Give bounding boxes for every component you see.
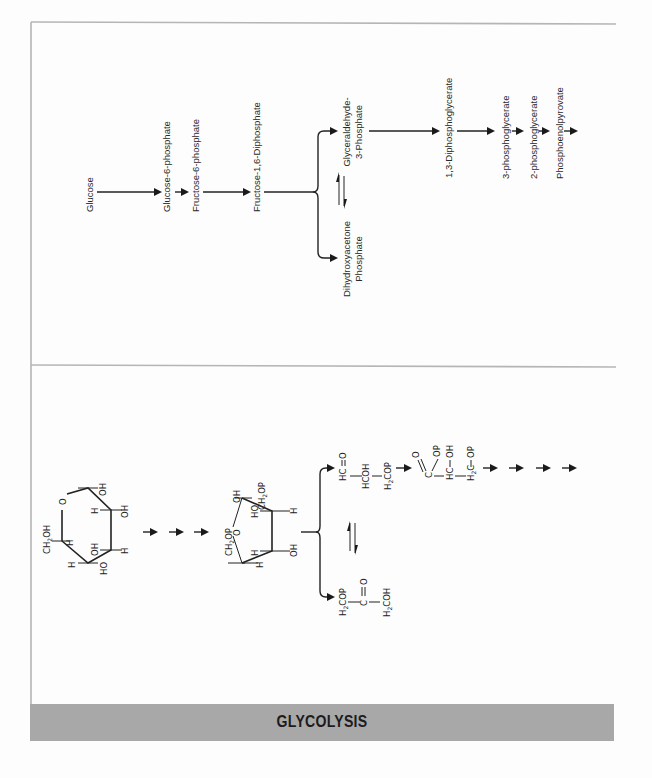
dihydroxyacetone-phosphate-structure: H2COP C O H2COH <box>338 578 393 617</box>
glucose-h1: H <box>65 540 75 546</box>
label-glucose-6-phosphate: Glucose-6-phosphate <box>161 121 172 212</box>
glucose-ch2oh: CH2OH <box>42 525 53 554</box>
fructose-oh-right: OH <box>289 544 299 557</box>
glucose-h2: H <box>67 562 77 568</box>
label-dihydroxyacetone-line2: Phosphate <box>353 236 364 281</box>
label-2-phosphoglycerate: 2-phosphoglycerate <box>528 96 539 179</box>
fructose-h-low1: H <box>250 550 260 556</box>
bpg-c1: C <box>424 472 434 478</box>
glucose-ring-o: O <box>58 498 68 505</box>
struct-split-upper <box>316 468 333 532</box>
dhap-h2cop: H2COP <box>338 588 349 616</box>
fructose-h-right: H <box>289 508 299 514</box>
structural-pathway-panel: O CH2OH H H HO OH H H OH OH O CH2O <box>42 445 575 617</box>
fructose-oh-top: OH <box>232 490 242 503</box>
equilibrium-arrows <box>336 172 347 209</box>
glycolysis-figure: Glucose Glucose-6-phosphate Fructose-6-p… <box>0 0 652 778</box>
bpg-op1: OP <box>432 445 442 457</box>
figure-title: GLYCOLYSIS <box>65 713 579 731</box>
split-arrow-upper <box>313 131 336 192</box>
struct-split-lower <box>316 532 333 597</box>
gap-h2cop: H2COP <box>383 462 394 490</box>
top-border <box>31 22 616 24</box>
gap-hcoh: HCOH <box>361 464 371 489</box>
glucose-oh-c1: OH <box>98 483 108 496</box>
split-arrow-lower <box>313 192 336 258</box>
glucose-ho: HO <box>99 562 109 575</box>
glucose-structure: O CH2OH H H HO OH H H OH OH <box>42 483 130 575</box>
title-banner: GLYCOLYSIS <box>30 704 614 741</box>
named-pathway-panel: Glucose Glucose-6-phosphate Fructose-6-p… <box>84 78 576 297</box>
label-phosphoenolpyrovate: Phosphoenolpyrovate <box>554 87 565 179</box>
bpg-o: O <box>411 451 421 458</box>
bpg-h2c: H2C <box>466 465 477 481</box>
1-3-bisphosphoglycerate-structure: O C OP HC OH H2C OP <box>411 445 477 481</box>
fructose-ho: HO <box>250 505 260 518</box>
glucose-oh-c3: OH <box>90 543 100 556</box>
glucose-h3: H <box>120 548 130 554</box>
label-fructose-6-phosphate: Fructose-6-phosphate <box>190 119 201 212</box>
label-glyceraldehyde-line1: Glyceraldehyde- <box>341 97 352 166</box>
bpg-op2: OP <box>466 446 476 458</box>
bpg-hc: HC <box>445 468 455 480</box>
glucose-h4: H <box>90 508 100 514</box>
dhap-o: O <box>359 578 369 585</box>
dhap-c: C <box>359 600 369 606</box>
label-glyceraldehyde-line2: 3-Phosphate <box>353 105 364 159</box>
glucose-oh-c2: OH <box>120 505 130 518</box>
label-dihydroxyacetone-line1: Dihydroxyacetone <box>341 221 352 297</box>
bpg-oh: OH <box>445 445 455 458</box>
dhap-h2coh: H2COH <box>382 588 393 617</box>
panel-divider <box>31 365 616 367</box>
label-glucose: Glucose <box>84 177 95 212</box>
label-fructose-1-6-diphosphate: Fructose-1,6-Diphosphate <box>251 102 262 212</box>
fructose-ch2op-left: CH2OP <box>224 528 235 556</box>
label-3-phosphoglycerate: 3-phosphoglycerate <box>500 96 511 179</box>
gap-o: O <box>338 452 348 459</box>
glyceraldehyde-3-phosphate-structure: HC O HCOH H2COP <box>338 452 394 490</box>
gap-hc: HC <box>338 469 348 481</box>
diagram-canvas: Glucose Glucose-6-phosphate Fructose-6-p… <box>0 0 652 778</box>
fructose-1-6-diphosphate-structure: O CH2OP OH CH2OP HO H H OH H <box>224 482 299 568</box>
struct-equilibrium-arrows <box>347 521 358 555</box>
label-1-3-diphosphoglycerate: 1,3-Diphosphoglycerate <box>443 78 454 178</box>
fructose-h-low2: H <box>255 562 265 568</box>
